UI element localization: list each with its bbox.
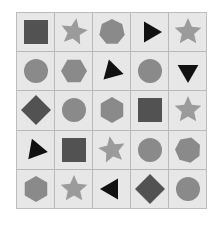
star-icon xyxy=(173,17,203,47)
heptagon-icon xyxy=(97,17,127,47)
grid-cell-r2-c5[interactable] xyxy=(169,52,206,90)
grid-cell-r5-c5[interactable] xyxy=(169,170,206,208)
hexagon-icon xyxy=(59,56,89,86)
square-icon xyxy=(59,135,89,165)
grid-cell-r3-c5[interactable] xyxy=(169,91,206,129)
grid-cell-r5-c2[interactable] xyxy=(55,170,92,208)
grid-cell-r1-c2[interactable] xyxy=(55,13,92,51)
grid-cell-r4-c1[interactable] xyxy=(17,131,54,169)
grid-cell-r2-c2[interactable] xyxy=(55,52,92,90)
square-icon xyxy=(135,95,165,125)
triangle-icon xyxy=(97,56,127,86)
heptagon-icon xyxy=(173,135,203,165)
grid-cell-r5-c3[interactable] xyxy=(93,170,130,208)
grid-cell-r2-c1[interactable] xyxy=(17,52,54,90)
circle-icon xyxy=(59,95,89,125)
star-icon xyxy=(59,174,89,204)
grid-cell-r1-c1[interactable] xyxy=(17,13,54,51)
grid-cell-r4-c3[interactable] xyxy=(93,131,130,169)
circle-icon xyxy=(173,174,203,204)
circle-icon xyxy=(21,56,51,86)
triangle-icon xyxy=(97,174,127,204)
circle-icon xyxy=(135,56,165,86)
square-icon xyxy=(21,17,51,47)
grid-cell-r3-c1[interactable] xyxy=(17,91,54,129)
grid-cell-r4-c4[interactable] xyxy=(131,131,168,169)
grid-cell-r5-c1[interactable] xyxy=(17,170,54,208)
hexagon-icon xyxy=(21,174,51,204)
grid-cell-r1-c3[interactable] xyxy=(93,13,130,51)
diamond-icon xyxy=(21,95,51,125)
grid-cell-r2-c4[interactable] xyxy=(131,52,168,90)
grid-cell-r4-c5[interactable] xyxy=(169,131,206,169)
triangle-icon xyxy=(135,17,165,47)
grid-cell-r1-c5[interactable] xyxy=(169,13,206,51)
grid-cell-r3-c2[interactable] xyxy=(55,91,92,129)
diamond-icon xyxy=(135,174,165,204)
star-icon xyxy=(97,135,127,165)
grid-cell-r5-c4[interactable] xyxy=(131,170,168,208)
grid-cell-r1-c4[interactable] xyxy=(131,13,168,51)
grid-cell-r2-c3[interactable] xyxy=(93,52,130,90)
grid-cell-r4-c2[interactable] xyxy=(55,131,92,169)
triangle-icon xyxy=(173,56,203,86)
star-icon xyxy=(59,17,89,47)
triangle-icon xyxy=(21,135,51,165)
star-icon xyxy=(173,95,203,125)
circle-icon xyxy=(135,135,165,165)
shape-grid xyxy=(16,12,207,209)
hexagon-icon xyxy=(97,95,127,125)
grid-cell-r3-c3[interactable] xyxy=(93,91,130,129)
grid-cell-r3-c4[interactable] xyxy=(131,91,168,129)
